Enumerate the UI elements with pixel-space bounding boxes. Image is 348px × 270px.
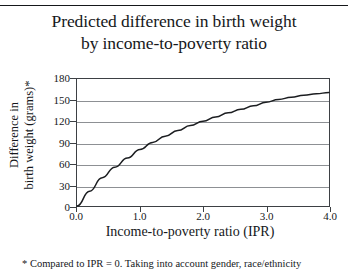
y-tick-label-180: 180: [40, 73, 70, 84]
x-axis-title: Income-to-poverty ratio (IPR): [40, 224, 340, 240]
y-tick-label-150: 150: [40, 94, 70, 105]
x-tick-label-1.0: 1.0: [120, 210, 160, 222]
plot-area: [76, 78, 330, 207]
y-axis-title: Difference in birth weight (grams)*: [7, 70, 37, 200]
chart-title-line-1: Predicted difference in birth weight: [0, 10, 348, 32]
y-tick-label-30: 30: [40, 180, 70, 191]
y-axis-title-line-1: Difference in: [7, 70, 22, 200]
chart-title: Predicted difference in birth weight by …: [0, 10, 348, 54]
y-axis-title-line-2: birth weight (grams)*: [22, 70, 37, 200]
top-divider-rule: [0, 5, 348, 6]
figure-page: Predicted difference in birth weight by …: [0, 0, 348, 270]
x-tick-label-3.0: 3.0: [247, 210, 287, 222]
x-tick-label-0.0: 0.0: [56, 210, 96, 222]
chart-title-line-2: by income-to-poverty ratio: [0, 32, 348, 54]
y-tick-label-60: 60: [40, 159, 70, 170]
y-tick-label-120: 120: [40, 116, 70, 127]
curve-series-group: [77, 79, 329, 206]
x-tick-label-2.0: 2.0: [183, 210, 223, 222]
chart-figure: Difference in birth weight (grams)* 0306…: [0, 58, 348, 250]
y-tick-label-90: 90: [40, 137, 70, 148]
x-tick-label-4.0: 4.0: [310, 210, 348, 222]
birth-weight-curve: [77, 92, 329, 206]
footnote: * Compared to IPR = 0. Taking into accou…: [22, 257, 348, 270]
